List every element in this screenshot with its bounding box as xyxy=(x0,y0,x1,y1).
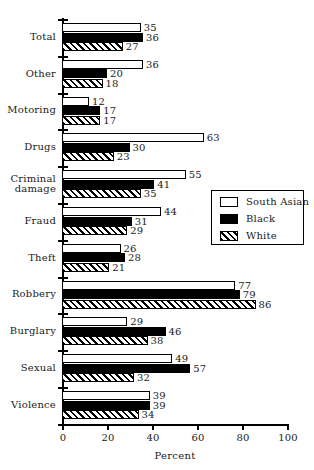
bar-value-label: 79 xyxy=(243,289,256,300)
bar-value-label: 18 xyxy=(106,78,119,89)
bar xyxy=(62,391,150,400)
bar-group: Drugs633023 xyxy=(62,133,287,161)
y-axis-tick xyxy=(58,129,68,131)
bar-row: 55 xyxy=(62,170,287,179)
bar xyxy=(62,189,141,198)
bar xyxy=(62,410,139,419)
category-label: Violence xyxy=(0,400,56,411)
bar-group: Violence393934 xyxy=(62,391,287,419)
y-axis-tick xyxy=(58,19,68,21)
bar xyxy=(62,106,100,115)
bar-value-label: 55 xyxy=(189,169,202,180)
bar-row: 35 xyxy=(62,23,287,32)
x-axis-tick xyxy=(62,424,64,430)
bar xyxy=(62,263,109,272)
bar-row: 12 xyxy=(62,97,287,106)
bar-row: 20 xyxy=(62,69,287,78)
bar-value-label: 17 xyxy=(103,115,116,126)
bar-row: 38 xyxy=(62,336,287,345)
legend-label: South Asian xyxy=(246,196,309,208)
x-axis-tick-label: 80 xyxy=(223,432,263,443)
category-label: Burglary xyxy=(0,326,56,337)
bar-row: 57 xyxy=(62,364,287,373)
x-axis-tick-label: 40 xyxy=(133,432,173,443)
bar-group: Total353627 xyxy=(62,23,287,51)
y-axis-tick xyxy=(58,277,68,279)
bar-group: Theft262821 xyxy=(62,244,287,272)
bar-value-label: 44 xyxy=(164,206,177,217)
bar-row: 86 xyxy=(62,300,287,309)
bar-group: Motoring121717 xyxy=(62,97,287,125)
category-label: Robbery xyxy=(0,289,56,300)
bar xyxy=(62,354,172,363)
bar-value-label: 63 xyxy=(207,132,220,143)
category-label: Theft xyxy=(0,253,56,264)
bar-row: 17 xyxy=(62,116,287,125)
bar-row: 17 xyxy=(62,106,287,115)
category-label: Motoring xyxy=(0,105,56,116)
x-axis-tick xyxy=(287,424,289,430)
bar-value-label: 36 xyxy=(146,32,159,43)
bar-group: Robbery777986 xyxy=(62,281,287,309)
bar-group: Other362018 xyxy=(62,60,287,88)
bar-group: Burglary294638 xyxy=(62,317,287,345)
bar-row: 49 xyxy=(62,354,287,363)
bar xyxy=(62,373,134,382)
bar xyxy=(62,226,127,235)
bar xyxy=(62,97,89,106)
chart-legend: South Asian Black White xyxy=(211,190,304,245)
bar-row: 21 xyxy=(62,263,287,272)
bar xyxy=(62,23,141,32)
bar-value-label: 34 xyxy=(142,409,155,420)
bar-value-label: 35 xyxy=(144,188,157,199)
bar-group: Sexual495732 xyxy=(62,354,287,382)
x-axis-tick-label: 0 xyxy=(43,432,83,443)
hatched-square-icon xyxy=(220,231,238,241)
bar-row: 32 xyxy=(62,373,287,382)
x-axis-tick xyxy=(152,424,154,430)
bar xyxy=(62,336,148,345)
x-axis-tick-label: 60 xyxy=(178,432,218,443)
bar-row: 27 xyxy=(62,42,287,51)
y-axis-tick xyxy=(58,387,68,389)
bar-row: 39 xyxy=(62,401,287,410)
legend-label: White xyxy=(246,230,277,242)
bar xyxy=(62,180,154,189)
y-axis-tick xyxy=(58,240,68,242)
bar xyxy=(62,69,107,78)
bar xyxy=(62,79,103,88)
bar-row: 79 xyxy=(62,290,287,299)
bar xyxy=(62,116,100,125)
category-label: Other xyxy=(0,69,56,80)
bar-value-label: 27 xyxy=(126,41,139,52)
bar-value-label: 29 xyxy=(130,316,143,327)
bar xyxy=(62,152,114,161)
bar xyxy=(62,217,132,226)
bar-row: 41 xyxy=(62,180,287,189)
bar-row: 46 xyxy=(62,327,287,336)
legend-label: Black xyxy=(246,213,275,225)
y-axis-tick xyxy=(58,166,68,168)
bar-value-label: 30 xyxy=(133,142,146,153)
bar-row: 23 xyxy=(62,152,287,161)
bar xyxy=(62,244,121,253)
y-axis-tick xyxy=(58,93,68,95)
bar xyxy=(62,401,150,410)
x-axis-tick xyxy=(197,424,199,430)
bar xyxy=(62,290,240,299)
x-axis-tick xyxy=(242,424,244,430)
bar xyxy=(62,60,143,69)
category-label: Criminal damage xyxy=(0,174,56,195)
y-axis-tick xyxy=(58,56,68,58)
bar-value-label: 46 xyxy=(169,326,182,337)
bar-value-label: 21 xyxy=(112,262,125,273)
grouped-bar-chart: Total353627Other362018Motoring121717Drug… xyxy=(0,0,314,470)
bar-value-label: 38 xyxy=(151,335,164,346)
bar xyxy=(62,42,123,51)
bar-value-label: 86 xyxy=(259,299,272,310)
category-label: Total xyxy=(0,32,56,43)
x-axis-tick-label: 100 xyxy=(268,432,308,443)
filled-square-icon xyxy=(220,214,238,224)
bar-row: 30 xyxy=(62,143,287,152)
bar xyxy=(62,281,235,290)
